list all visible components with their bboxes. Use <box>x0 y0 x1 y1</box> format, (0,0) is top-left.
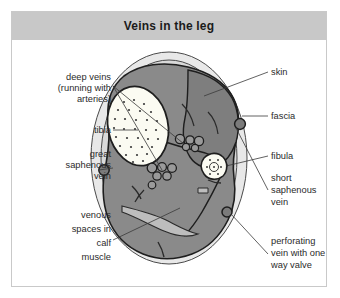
fibula-bone <box>201 153 227 179</box>
figure-title-bar: Veins in the leg <box>12 12 326 40</box>
label-line: great <box>90 149 112 159</box>
label-line: deep veins <box>66 72 111 82</box>
label-line: calf <box>97 238 112 248</box>
label-skin: skin <box>271 67 288 77</box>
label-tibia: tibia <box>94 125 112 135</box>
label-fascia: fascia <box>271 111 296 121</box>
leg-cross-section-svg: deep veins (running with arteries) tibia… <box>12 40 326 288</box>
perforating-vein-marker <box>222 207 232 217</box>
label-line: fibula <box>271 151 294 161</box>
label-line: muscle <box>82 252 111 262</box>
page-title: Veins in the leg <box>124 19 215 33</box>
label-line: fascia <box>271 111 296 121</box>
label-line: saphenous <box>271 185 317 195</box>
label-perforating-vein: perforating vein with one way valve <box>270 236 325 270</box>
diagram-canvas: deep veins (running with arteries) tibia… <box>12 40 326 288</box>
label-line: vein <box>271 197 288 207</box>
label-line: arteries) <box>77 94 111 104</box>
label-line: vein <box>94 171 111 181</box>
label-line: saphenous <box>66 160 112 170</box>
label-line: short <box>271 173 292 183</box>
label-line: way valve <box>270 260 312 270</box>
label-line: perforating <box>271 236 315 246</box>
label-line: (running with <box>58 83 111 93</box>
label-fibula: fibula <box>271 151 294 161</box>
label-great-saphenous-vein: great saphenous vein <box>66 149 112 181</box>
venous-space-slit <box>198 188 208 193</box>
label-line: spaces in <box>72 224 111 234</box>
figure-panel: Veins in the leg <box>11 11 327 287</box>
label-line: skin <box>271 67 288 77</box>
label-line: venous <box>81 210 111 220</box>
label-line: vein with one <box>271 248 325 258</box>
label-line: tibia <box>94 125 112 135</box>
label-deep-veins: deep veins (running with arteries) <box>58 72 112 104</box>
short-saphenous-vein-marker <box>235 119 246 130</box>
label-venous-spaces: venous spaces in calf muscle <box>72 210 112 262</box>
leader-line-perforating <box>231 214 268 254</box>
label-short-saphenous-vein: short saphenous vein <box>271 173 317 207</box>
